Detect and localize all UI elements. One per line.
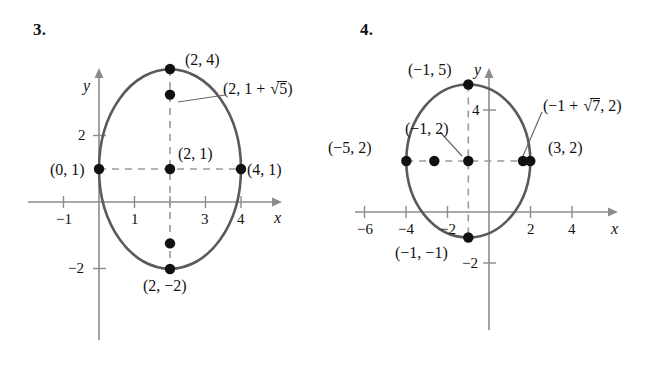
point-label-right-vertex: (3, 2) bbox=[548, 140, 583, 156]
y-tick-label--2: −2 bbox=[462, 256, 478, 271]
figure-4: 4. bbox=[0, 0, 668, 368]
x-tick-label-4: 4 bbox=[568, 222, 576, 237]
y-tick-label-4: 4 bbox=[472, 103, 480, 118]
point-label-right-focus: (−1 + √7, 2) bbox=[543, 98, 621, 114]
point-left-vertex[interactable] bbox=[401, 156, 411, 166]
x-axis-arrow bbox=[608, 208, 618, 217]
point-label-center: (−1, 2) bbox=[405, 121, 449, 137]
point-top-vertex[interactable] bbox=[463, 79, 473, 89]
point-label-left-vertex: (−5, 2) bbox=[328, 140, 372, 156]
y-axis-label: y bbox=[474, 62, 481, 78]
point-center[interactable] bbox=[463, 156, 473, 166]
point-right-vertex[interactable] bbox=[525, 156, 535, 166]
radical-sqrt7: √7 bbox=[582, 97, 600, 114]
x-tick-label--2: −2 bbox=[440, 222, 456, 237]
point-left-focus[interactable] bbox=[429, 156, 439, 166]
x-axis-label: x bbox=[611, 221, 618, 237]
point-label-top-vertex: (−1, 5) bbox=[408, 62, 452, 78]
point-bottom-vertex[interactable] bbox=[463, 232, 473, 242]
figure-4-plot bbox=[0, 0, 668, 368]
point-label-bottom-vertex: (−1, −1) bbox=[395, 245, 448, 261]
radicand-value: 7 bbox=[592, 97, 600, 114]
y-axis-arrow bbox=[485, 68, 494, 78]
x-tick-label-2: 2 bbox=[527, 222, 535, 237]
worksheet-page: 3. bbox=[0, 0, 668, 368]
x-tick-label--6: −6 bbox=[357, 222, 373, 237]
x-tick-label--4: −4 bbox=[398, 222, 414, 237]
